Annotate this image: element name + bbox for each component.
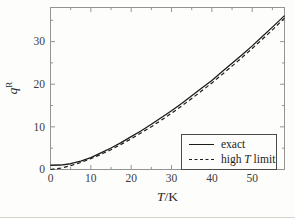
x-axis-label-variable: T xyxy=(157,189,165,204)
x-tick-label: 20 xyxy=(125,172,137,184)
legend-item-label: high T limit xyxy=(221,154,275,166)
chart-canvas: 010203040500102030 xyxy=(0,0,295,219)
y-tick-label: 10 xyxy=(34,121,46,133)
x-tick-label: 50 xyxy=(246,172,258,184)
legend-item-label: exact xyxy=(221,139,245,151)
x-tick-label: 40 xyxy=(206,172,218,184)
y-tick-label: 0 xyxy=(39,163,45,175)
y-axis-label-superscript: R xyxy=(4,82,14,88)
chart-container: 010203040500102030 T/K qR exact high T l… xyxy=(0,0,295,219)
legend-item-exact: exact xyxy=(189,138,270,151)
x-tick-label: 10 xyxy=(85,172,97,184)
y-tick-label: 20 xyxy=(34,78,46,90)
solid-line-sample-icon xyxy=(189,144,214,145)
y-axis-label: qR xyxy=(5,82,21,95)
y-tick-label: 30 xyxy=(34,35,46,47)
x-axis-label: T/K xyxy=(50,189,285,205)
page-bottom-rule xyxy=(0,217,295,218)
dashed-line-sample-icon xyxy=(189,159,214,160)
y-axis-label-variable: q xyxy=(5,88,20,95)
x-axis-label-unit: /K xyxy=(165,189,179,204)
legend-item-high-t-limit: high T limit xyxy=(189,153,270,166)
legend-box: exact high T limit xyxy=(181,134,277,170)
x-tick-label: 30 xyxy=(166,172,178,184)
x-tick-label: 0 xyxy=(48,172,54,184)
